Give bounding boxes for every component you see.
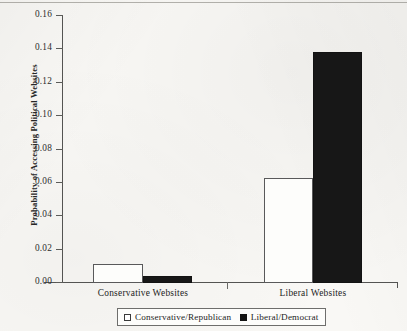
legend-label: Liberal/Democrat	[251, 312, 319, 322]
legend-open-square-icon	[124, 314, 131, 321]
y-axis-tick	[56, 215, 63, 216]
legend-entry: Conservative/Republican	[124, 312, 231, 322]
legend-filled-square-icon	[240, 314, 247, 321]
bar-liberal-websites-liberal-democrat	[313, 52, 362, 283]
x-axis-category-label: Liberal Websites	[243, 288, 383, 298]
bar-liberal-websites-conservative-republican	[264, 178, 313, 283]
y-axis-tick	[56, 115, 63, 116]
x-axis-category-label: Conservative Websites	[63, 288, 223, 298]
y-axis-tick-label: 0.16	[16, 9, 52, 19]
x-axis-end-tick	[397, 282, 398, 288]
bar-conservative-websites-conservative-republican	[93, 264, 143, 283]
y-axis-tick-label: 0.08	[16, 143, 52, 153]
y-axis-tick	[56, 149, 63, 150]
legend-label: Conservative/Republican	[135, 312, 231, 322]
y-axis-tick-label: 0.14	[16, 42, 52, 52]
y-axis-tick-label: 0.02	[16, 243, 52, 253]
x-axis-group-separator-tick	[227, 282, 228, 289]
y-axis-tick	[56, 82, 63, 83]
bar-conservative-websites-liberal-democrat	[143, 276, 192, 283]
y-axis-tick	[56, 48, 63, 49]
y-axis-tick-label: 0.12	[16, 76, 52, 86]
y-axis-tick	[56, 249, 63, 250]
chart-legend: Conservative/RepublicanLiberal/Democrat	[117, 308, 326, 326]
y-axis-tick-label: 0.04	[16, 209, 52, 219]
bar-chart: Probability of Accessing Political Websi…	[0, 0, 407, 331]
y-axis-tick	[56, 15, 63, 16]
legend-entry: Liberal/Democrat	[240, 312, 318, 322]
y-axis-tick	[56, 282, 63, 283]
y-axis-tick	[56, 182, 63, 183]
y-axis-tick-label: 0.10	[16, 109, 52, 119]
y-axis-tick-label: 0.00	[16, 276, 52, 286]
y-axis-tick-label: 0.06	[16, 176, 52, 186]
